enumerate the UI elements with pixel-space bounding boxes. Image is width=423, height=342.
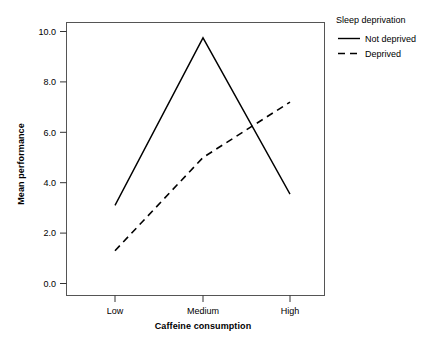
- y-tick-label: 8.0: [43, 77, 56, 87]
- legend-item-deprived[interactable]: Deprived: [338, 49, 401, 59]
- legend-label: Not deprived: [365, 34, 416, 44]
- legend: Sleep deprivation Not deprived Deprived: [336, 15, 416, 59]
- y-axis-ticks: [60, 32, 67, 284]
- x-tick-label: Medium: [187, 306, 219, 316]
- x-tick-label: High: [281, 306, 300, 316]
- y-tick-label: 0.0: [43, 279, 56, 289]
- x-tick-label: Low: [107, 306, 124, 316]
- y-axis-title: Mean performance: [16, 123, 26, 205]
- y-tick-label: 4.0: [43, 178, 56, 188]
- x-axis-ticks: [115, 296, 290, 303]
- x-axis-title: Caffeine consumption: [155, 321, 252, 331]
- y-tick-label: 2.0: [43, 228, 56, 238]
- y-tick-label: 10.0: [38, 27, 56, 37]
- interaction-plot-figure: 10.0 8.0 6.0 4.0 2.0 0.0 Mean performanc…: [0, 0, 423, 342]
- legend-item-not-deprived[interactable]: Not deprived: [338, 34, 416, 44]
- y-tick-label: 6.0: [43, 128, 56, 138]
- legend-label: Deprived: [365, 49, 401, 59]
- chart-svg: 10.0 8.0 6.0 4.0 2.0 0.0 Mean performanc…: [0, 0, 423, 342]
- y-axis-tick-labels: 10.0 8.0 6.0 4.0 2.0 0.0: [38, 27, 56, 289]
- plot-frame: [67, 23, 325, 296]
- x-axis-tick-labels: Low Medium High: [107, 306, 300, 316]
- legend-title: Sleep deprivation: [336, 15, 406, 25]
